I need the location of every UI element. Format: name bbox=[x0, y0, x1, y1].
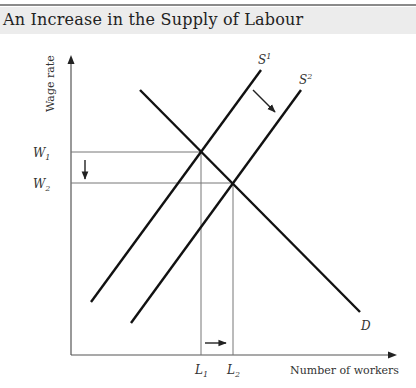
l1-label: L1 bbox=[194, 363, 208, 379]
y-axis-label: Wage rate bbox=[44, 55, 57, 112]
guide-lines bbox=[71, 152, 233, 355]
w1-label: W1 bbox=[33, 146, 50, 162]
y-axis bbox=[68, 55, 75, 355]
x-axis bbox=[71, 352, 397, 359]
x-axis-arrowhead-icon bbox=[388, 352, 397, 359]
d-label: D bbox=[360, 319, 371, 333]
s1-label: S1 bbox=[258, 52, 271, 67]
labour-supply-chart: S1 S2 D W1 W2 L1 L2 Number of workers Wa… bbox=[0, 0, 416, 388]
supply-shift-arrow-icon bbox=[253, 90, 275, 112]
supply-curve-s2 bbox=[131, 90, 301, 323]
s2-label: S2 bbox=[299, 72, 312, 87]
y-axis-arrowhead-icon bbox=[68, 55, 75, 64]
demand-curve bbox=[140, 90, 360, 312]
x-axis-label: Number of workers bbox=[290, 364, 399, 377]
l2-label: L2 bbox=[226, 363, 240, 379]
w2-label: W2 bbox=[33, 177, 50, 193]
